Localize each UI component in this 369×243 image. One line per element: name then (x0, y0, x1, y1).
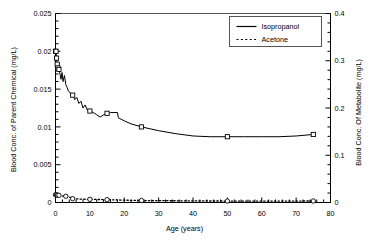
svg-text:Acetone: Acetone (262, 35, 288, 44)
svg-text:0.3: 0.3 (335, 56, 345, 65)
y-axis-right-title: Blood Conc. Of Metabolite (mg/L) (354, 33, 363, 193)
chart-legend: IsopropanolAcetone (230, 17, 322, 47)
svg-text:40: 40 (189, 209, 197, 218)
svg-text:0.01: 0.01 (38, 123, 52, 132)
svg-text:60: 60 (258, 209, 266, 218)
line-chart-plot: 01020304050607080 00.0050.010.0150.020.0… (0, 0, 369, 243)
svg-text:0.005: 0.005 (34, 160, 52, 169)
y-axis-left-title: Blood Conc. of Parent Chemical (mg/L) (9, 30, 18, 190)
svg-text:Isopropanol: Isopropanol (262, 22, 300, 31)
svg-text:0.1: 0.1 (335, 151, 345, 160)
svg-text:80: 80 (327, 209, 335, 218)
svg-text:0.015: 0.015 (34, 85, 52, 94)
svg-text:30: 30 (155, 209, 163, 218)
svg-text:0.2: 0.2 (335, 104, 345, 113)
svg-text:10: 10 (86, 209, 94, 218)
svg-text:0: 0 (48, 198, 52, 207)
x-axis-title: Age (years) (0, 224, 369, 233)
svg-text:0.4: 0.4 (335, 9, 345, 18)
svg-text:70: 70 (292, 209, 300, 218)
svg-text:0: 0 (54, 209, 58, 218)
svg-text:20: 20 (120, 209, 128, 218)
svg-text:50: 50 (223, 209, 231, 218)
svg-text:0: 0 (335, 198, 339, 207)
svg-text:0.025: 0.025 (34, 9, 52, 18)
chart-figure: 01020304050607080 00.0050.010.0150.020.0… (0, 0, 369, 243)
svg-text:0.02: 0.02 (38, 47, 52, 56)
